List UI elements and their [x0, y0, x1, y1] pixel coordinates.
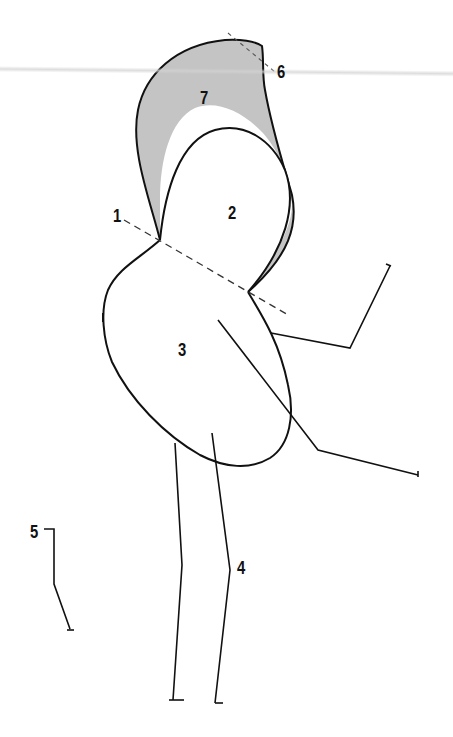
upper-right-tick: [386, 264, 391, 266]
upper-right-bent-line: [271, 266, 390, 348]
label-6: 6: [277, 62, 285, 81]
label-4: 4: [237, 558, 245, 577]
label-1: 1: [113, 206, 121, 225]
label-2: 2: [228, 203, 236, 222]
lower-right-bent-line: [218, 320, 418, 475]
label-3: 3: [178, 340, 186, 359]
leg-left: [173, 443, 182, 700]
bracket-line-5: [44, 529, 70, 629]
label-7: 7: [200, 88, 208, 107]
leg-right: [212, 433, 230, 703]
diagram-canvas: 1 2 3 4 5 6 7: [0, 0, 453, 737]
label-5: 5: [30, 522, 38, 541]
diagram-drawing: [0, 0, 453, 737]
